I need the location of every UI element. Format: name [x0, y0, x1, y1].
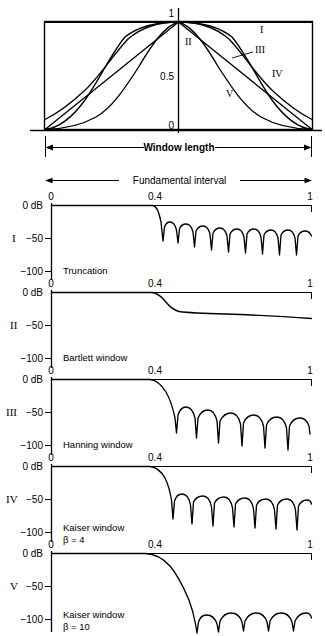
- panel3-ylabel-minus100: −100: [20, 440, 43, 451]
- panel2-ylabel-minus100: −100: [20, 353, 43, 364]
- window-functions-figure: 1 0.5 0 I II III IV V: [0, 0, 325, 636]
- panel1-ylabel-0db: 0 dB: [22, 200, 43, 211]
- panel1-xtick-04: 0.4: [148, 191, 162, 202]
- fundamental-interval-left-arrowhead: [45, 178, 53, 184]
- panel4-ylabel-0db: 0 dB: [22, 461, 43, 472]
- curve-label-III: III: [255, 44, 265, 55]
- curve-label-V: V: [226, 88, 234, 99]
- panel-bartlett: 0 0.4 1 0 dB −50 −100 II Bartlett window: [10, 278, 313, 368]
- panel5-spectrum: [52, 554, 312, 634]
- panel3-xtick-1: 1: [307, 365, 313, 376]
- panel4-xtick-1: 1: [307, 452, 313, 463]
- panel-kaiser-10: 0 0.4 1 0 dB −50 −100 V Kaiser window β …: [10, 539, 313, 633]
- panel2-caption: Bartlett window: [63, 352, 128, 363]
- panel5-caption: Kaiser window: [63, 609, 124, 620]
- panel5-numeral: V: [10, 580, 18, 592]
- panel3-xtick-0: 0: [48, 365, 54, 376]
- panel5-caption-beta: β = 10: [63, 621, 90, 632]
- curve-label-I: I: [260, 24, 263, 35]
- top-ytick-0p5: 0.5: [160, 71, 174, 82]
- panel3-numeral: III: [6, 406, 17, 418]
- panel4-caption-beta: β = 4: [63, 534, 85, 545]
- curve-label-IV: IV: [272, 68, 283, 79]
- panel5-ylabel-minus50: −50: [26, 581, 43, 592]
- panel2-ylabel-minus50: −50: [26, 320, 43, 331]
- panel1-xtick-1: 1: [307, 191, 313, 202]
- window-length-left-arrowhead: [46, 145, 54, 151]
- panel-truncation: 0 0.4 1 0 dB −50 −100 I Truncation: [12, 191, 313, 280]
- window-shapes-panel: 1 0.5 0 I II III IV V: [30, 8, 322, 133]
- panel4-ylabel-minus100: −100: [20, 527, 43, 538]
- window-length-label: Window length: [143, 142, 214, 153]
- panel3-xtick-04: 0.4: [148, 365, 162, 376]
- panel3-ylabel-minus50: −50: [26, 407, 43, 418]
- window-length-right-arrowhead: [304, 145, 312, 151]
- panel2-ylabel-0db: 0 dB: [22, 287, 43, 298]
- panel4-xtick-04: 0.4: [148, 452, 162, 463]
- curve-label-II: II: [185, 36, 192, 47]
- panel1-ylabel-minus100: −100: [20, 266, 43, 277]
- panel4-spectrum: [52, 467, 312, 531]
- panel2-xtick-04: 0.4: [148, 278, 162, 289]
- panel2-numeral: II: [10, 319, 18, 331]
- panel5-xtick-1: 1: [307, 539, 313, 550]
- panel1-xtick-0: 0: [48, 191, 54, 202]
- figure-svg: 1 0.5 0 I II III IV V: [0, 0, 325, 636]
- top-ytick-0: 0: [168, 120, 174, 131]
- panel1-ylabel-minus50: −50: [26, 233, 43, 244]
- panel1-numeral: I: [12, 232, 16, 244]
- panel1-spectrum: [52, 206, 312, 256]
- panel4-ylabel-minus50: −50: [26, 494, 43, 505]
- panel1-caption: Truncation: [63, 265, 108, 276]
- panel-hanning: 0 0.4 1 0 dB −50 −100 III Hanning window: [6, 365, 313, 455]
- panel2-xtick-0: 0: [48, 278, 54, 289]
- panel4-caption: Kaiser window: [63, 522, 124, 533]
- panel5-ylabel-0db: 0 dB: [22, 548, 43, 559]
- panel5-xtick-04: 0.4: [148, 539, 162, 550]
- panel3-caption: Hanning window: [63, 439, 133, 450]
- panel2-spectrum: [52, 293, 312, 319]
- panel3-ylabel-0db: 0 dB: [22, 374, 43, 385]
- panel4-numeral: IV: [6, 493, 18, 505]
- fundamental-interval-arrow: Fundamental interval: [45, 175, 312, 186]
- fundamental-interval-right-arrowhead: [305, 178, 313, 184]
- top-ytick-1: 1: [168, 8, 174, 19]
- panel-kaiser-4: 0 0.4 1 0 dB −50 −100 IV Kaiser window β…: [6, 452, 313, 545]
- panel4-xtick-0: 0: [48, 452, 54, 463]
- panel5-ylabel-minus100: −100: [20, 614, 43, 625]
- window-length-arrow: Window length: [46, 136, 312, 157]
- panel5-xtick-0: 0: [48, 539, 54, 550]
- panel2-xtick-1: 1: [307, 278, 313, 289]
- fundamental-interval-label: Fundamental interval: [133, 175, 226, 186]
